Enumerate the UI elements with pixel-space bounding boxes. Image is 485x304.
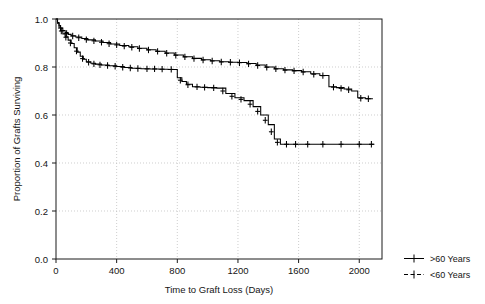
chart-legend: >60 Years <60 Years	[404, 254, 471, 280]
x-tick-label: 2000	[349, 265, 370, 276]
y-tick-label: 0.2	[35, 206, 48, 217]
legend-label-over-60: >60 Years	[430, 254, 471, 264]
legend-label-under-60: <60 Years	[430, 270, 471, 280]
y-tick-label: 1.0	[35, 14, 48, 25]
x-tick-label: 400	[109, 265, 125, 276]
y-tick-label: 0.0	[35, 254, 48, 265]
survival-chart-figure: 0400800120016002000 0.00.20.40.60.81.0 T…	[0, 0, 485, 304]
x-tick-label: 1600	[288, 265, 309, 276]
y-tick-label: 0.8	[35, 62, 48, 73]
legend-entry-over-60: >60 Years	[404, 254, 471, 264]
y-axis-ticks: 0.00.20.40.60.81.0	[35, 14, 56, 265]
x-axis-title: Time to Graft Loss (Days)	[165, 284, 273, 295]
y-tick-label: 0.6	[35, 110, 48, 121]
chart-svg: 0400800120016002000 0.00.20.40.60.81.0 T…	[0, 0, 485, 304]
legend-entry-under-60: <60 Years	[404, 270, 471, 280]
x-tick-label: 0	[53, 265, 58, 276]
y-tick-label: 0.4	[35, 158, 48, 169]
x-axis-ticks: 0400800120016002000	[53, 259, 369, 276]
x-tick-label: 800	[169, 265, 185, 276]
plot-background	[56, 19, 382, 259]
y-axis-title: Proportion of Grafts Surviving	[11, 77, 22, 202]
x-tick-label: 1200	[227, 265, 248, 276]
